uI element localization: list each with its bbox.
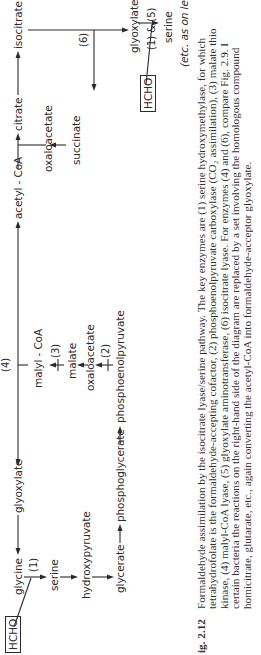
hcho-left: HCHO [5,616,21,653]
oxaloacetate-right-label: oxaloacetate [42,105,54,172]
malyl-coa-label: malyl - CoA [32,329,44,388]
rotated-page: HCHO glycine glyoxylate (4) acetyl - CoA… [0,0,261,655]
succinate-label: succinate [70,116,82,165]
citrate-label: citrate [12,98,24,131]
caption-line-4: certain bacteria the reactions on the ri… [230,3,241,609]
serine-left-label: serine [48,559,60,591]
phosphoenolpyruvate-label: phosphoenolpyruvate [114,310,126,423]
hcho-right: HCHO [140,75,156,112]
enzyme-1-5-label: (1) & (5) [146,8,158,51]
enzyme-6-label: (6) [78,33,90,47]
glyoxylate-left-label: glyoxylate [12,460,24,513]
caption-line-2: tetrahydrofolate is the formaldehyde-acc… [207,3,218,609]
figure-label: ig. 2.12 [196,613,207,653]
glycerate-label: glycerate [114,545,126,593]
enzyme-4-label: (4) [0,358,12,372]
isocitrate-label: isocitrate [12,1,24,49]
caption-line-5: homicitrate, glutarate, etc., again conv… [242,3,253,609]
figure-caption: ig. 2.12 Formaldehyde assimilation by th… [196,3,253,653]
enzyme-3-label: (3) [50,344,62,358]
glyoxylate-right-label: glyoxylate [128,0,140,53]
phosphoglycerate-label: phosphoglycerate [114,429,126,522]
acetyl-coa-label: acetyl - CoA [12,157,24,219]
enzyme-2-label: (2) [100,344,112,358]
etc-note: (etc. as on left) [178,0,190,67]
serine-right-label: serine [162,11,174,43]
glycine-label: glycine [12,558,24,595]
enzyme-1-left-label: (1) [28,558,40,572]
caption-line-3: kinase, (4) malyl-CoA lyase, (5) glyoxyl… [219,3,230,609]
hydroxypyruvate-label: hydroxypyruvate [80,511,92,599]
malate-label: malate [66,343,78,379]
caption-line-1: Formaldehyde assimilation by the isocitr… [196,3,207,609]
oxaloacetate-left-label: oxaloacetate [84,324,96,391]
